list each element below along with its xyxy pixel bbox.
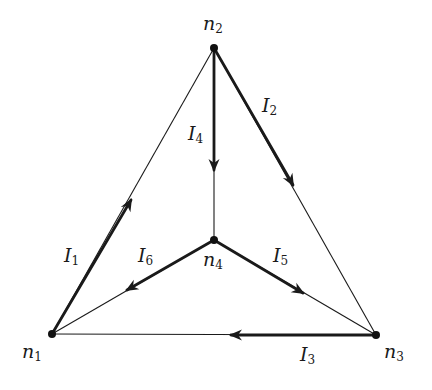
edge-I5-thick [214, 240, 303, 293]
node-label-n3: n3 [384, 342, 404, 363]
node-label-n3-name: n [384, 340, 396, 362]
current-label-I3-sub: 3 [308, 353, 316, 367]
edge-I2-thick [214, 48, 293, 185]
current-label-I2-sub: 2 [270, 104, 278, 118]
node-label-n1-sub: 1 [34, 350, 42, 364]
current-label-I4: I4 [188, 124, 203, 145]
node-label-n4: n4 [203, 250, 223, 271]
node-label-n3-sub: 3 [396, 350, 404, 364]
current-label-I5-name: I [273, 244, 281, 266]
node-n4 [210, 236, 218, 244]
edge-I1-thick [52, 200, 131, 334]
node-label-n2-name: n [203, 12, 215, 34]
current-label-I6: I6 [138, 246, 153, 267]
current-label-I6-name: I [138, 244, 146, 266]
node-label-n1-name: n [22, 340, 34, 362]
current-label-I2-name: I [262, 94, 270, 116]
current-label-I3: I3 [300, 345, 315, 366]
node-label-n4-name: n [203, 248, 215, 270]
current-label-I3-name: I [300, 343, 308, 365]
current-label-I2: I2 [262, 96, 277, 117]
current-label-I1: I1 [64, 246, 79, 267]
node-label-n4-sub: 4 [215, 258, 223, 272]
node-n1 [48, 330, 56, 338]
current-label-I4-sub: 4 [196, 132, 204, 146]
node-n3 [372, 331, 380, 339]
current-label-I6-sub: 6 [146, 254, 154, 268]
node-label-n2-sub: 2 [215, 22, 223, 36]
current-label-I4-name: I [188, 122, 196, 144]
current-label-I5-sub: 5 [281, 254, 289, 268]
current-label-I1-sub: 1 [72, 254, 80, 268]
node-n2 [210, 44, 218, 52]
current-label-I1-name: I [64, 244, 72, 266]
node-label-n1: n1 [22, 342, 42, 363]
node-label-n2: n2 [203, 14, 223, 35]
current-label-I5: I5 [273, 246, 288, 267]
network-diagram [0, 0, 432, 390]
